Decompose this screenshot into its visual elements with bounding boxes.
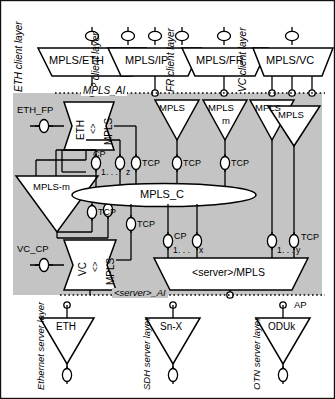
label-cp-2-ellipsis: . . . — [178, 246, 190, 255]
label-ap: AP — [294, 300, 307, 310]
label-server-tt-snx: Sn-X — [160, 322, 182, 332]
label-tt-mpls-m-sub: m — [222, 116, 230, 126]
label-tcp-3: TCP — [231, 159, 249, 168]
label-tt-mpls-4: MPLS — [278, 110, 304, 120]
label-cp-2-to: x — [199, 246, 203, 255]
label-mpls-eth: MPLS/ETH — [49, 55, 104, 66]
label-tt-mpls-m: MPLS — [208, 103, 234, 113]
client-layer-label-eth: ETH client layer — [14, 21, 24, 92]
label-tcp-5: TCP — [137, 220, 155, 229]
label-server-ai: <server>_AI — [112, 288, 168, 298]
label-cp-3-ellipsis: . . . — [282, 246, 294, 255]
label-tcp-4: TCP — [98, 208, 116, 217]
label-mpls-side-eth: MPLS — [104, 118, 114, 145]
label-tt-mpls-3: MPLS — [255, 103, 281, 113]
label-cp-1-ellipsis: . . . — [106, 168, 118, 177]
label-cp-3-to: y — [296, 246, 300, 255]
label-matrix-mpls-m: MPLS-m — [33, 182, 70, 192]
server-layer-label-ethernet: Ethernet server layer — [36, 302, 46, 390]
label-mpls-vc: MPLS/VC — [266, 55, 314, 66]
server-tt-eth — [40, 302, 94, 384]
server-tt-oduk — [256, 302, 310, 384]
server-layer-label-sdh: SDH server layer — [142, 318, 152, 390]
label-vc-cp: VC_CP — [17, 244, 49, 254]
label-mpls-ip: MPLS/IP — [125, 55, 168, 66]
label-mpls-side-vc: MPLS — [106, 258, 116, 285]
label-mpls-fr: MPLS/FR — [196, 55, 244, 66]
server-layer-label-otn: OTN server layer — [252, 318, 262, 390]
label-eth-mpls-arrow: <> — [89, 123, 98, 134]
label-server-tt-eth: ETH — [56, 322, 76, 332]
label-eth-side: ETH — [76, 120, 86, 140]
label-vc-side: VC — [78, 262, 88, 276]
label-tt-mpls-1: MPLS — [159, 103, 185, 113]
label-tcp-1: TCP — [142, 159, 160, 168]
label-cp-1: CP — [93, 150, 106, 159]
label-cp-2: CP — [174, 232, 187, 241]
server-tt-sn-x — [146, 302, 200, 384]
label-vc-mpls-arrow: <> — [91, 261, 100, 272]
label-eth-fp: ETH_FP — [17, 105, 53, 115]
label-tcp-2: TCP — [183, 159, 201, 168]
mpls-architecture-diagram: ETH client layer IP client layer FR clie… — [0, 0, 335, 399]
label-server-mpls: <server>/MPLS — [192, 267, 265, 278]
label-cp-1-to: z — [126, 168, 130, 177]
label-mpls-ai: MPLS_AI — [81, 86, 127, 96]
label-tcp-6: TCP — [301, 233, 319, 242]
label-server-tt-oduk: ODUk — [268, 322, 295, 332]
label-mpls-c: MPLS_C — [140, 189, 184, 200]
